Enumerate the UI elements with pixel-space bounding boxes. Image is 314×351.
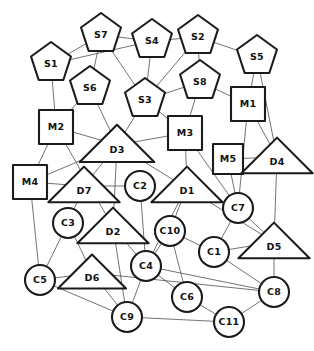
node-c7[interactable]: C7 [223, 193, 253, 223]
square-shape [13, 165, 47, 199]
pentagon-shape [81, 13, 121, 51]
node-c9[interactable]: C9 [112, 302, 142, 332]
triangle-shape [77, 208, 148, 244]
node-s7[interactable]: S7 [81, 13, 121, 51]
node-m5[interactable]: M5 [213, 144, 243, 174]
pentagon-shape [70, 66, 110, 104]
circle-shape [223, 193, 253, 223]
node-d6[interactable]: D6 [58, 255, 126, 289]
circle-shape [53, 208, 83, 238]
circle-shape [125, 171, 155, 201]
pentagon-shape [132, 19, 172, 57]
node-c1[interactable]: C1 [199, 237, 229, 267]
square-shape [231, 87, 265, 121]
circle-shape [214, 307, 244, 337]
node-m1[interactable]: M1 [231, 87, 265, 121]
node-d2[interactable]: D2 [77, 208, 148, 244]
node-m3[interactable]: M3 [168, 116, 202, 150]
node-c11[interactable]: C11 [214, 307, 244, 337]
circle-shape [25, 265, 55, 295]
circle-shape [199, 237, 229, 267]
square-shape [168, 116, 202, 150]
node-c8[interactable]: C8 [259, 277, 289, 307]
triangle-shape [238, 223, 309, 259]
node-s2[interactable]: S2 [178, 15, 218, 53]
network-diagram-svg: S1S2S3S4S5S6S7S8M1M2M3M4M5D1D2D3D4D5D6D7… [0, 0, 314, 351]
triangle-shape [151, 167, 222, 203]
square-shape [39, 110, 73, 144]
pentagon-shape [237, 35, 277, 73]
circle-shape [155, 216, 185, 246]
pentagon-shape [180, 60, 220, 98]
node-c2[interactable]: C2 [125, 171, 155, 201]
node-d5[interactable]: D5 [238, 223, 309, 259]
circle-shape [112, 302, 142, 332]
circle-shape [172, 282, 202, 312]
node-m2[interactable]: M2 [39, 110, 73, 144]
node-d1[interactable]: D1 [151, 167, 222, 203]
node-s1[interactable]: S1 [31, 42, 71, 80]
node-m4[interactable]: M4 [13, 165, 47, 199]
node-c3[interactable]: C3 [53, 208, 83, 238]
node-s8[interactable]: S8 [180, 60, 220, 98]
node-c10[interactable]: C10 [155, 216, 185, 246]
node-c6[interactable]: C6 [172, 282, 202, 312]
node-s5[interactable]: S5 [237, 35, 277, 73]
pentagon-shape [178, 15, 218, 53]
circle-shape [259, 277, 289, 307]
circle-shape [131, 251, 161, 281]
triangle-shape [80, 125, 155, 162]
node-s4[interactable]: S4 [132, 19, 172, 57]
node-c4[interactable]: C4 [131, 251, 161, 281]
triangle-shape [241, 138, 312, 174]
network-diagram-canvas: S1S2S3S4S5S6S7S8M1M2M3M4M5D1D2D3D4D5D6D7… [0, 0, 314, 351]
pentagon-shape [31, 42, 71, 80]
node-layer: S1S2S3S4S5S6S7S8M1M2M3M4M5D1D2D3D4D5D6D7… [13, 13, 313, 337]
node-c5[interactable]: C5 [25, 265, 55, 295]
node-d4[interactable]: D4 [241, 138, 312, 174]
node-s6[interactable]: S6 [70, 66, 110, 104]
triangle-shape [58, 255, 126, 289]
node-d3[interactable]: D3 [80, 125, 155, 162]
square-shape [213, 144, 243, 174]
